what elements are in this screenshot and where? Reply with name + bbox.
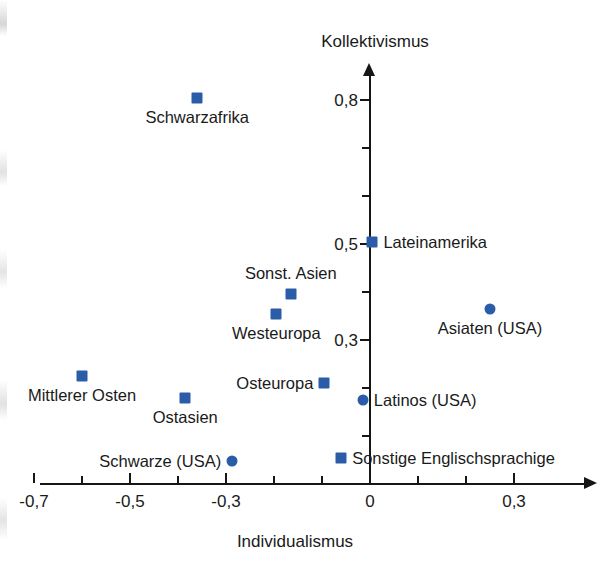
y-axis-tick xyxy=(362,195,369,197)
data-point-label: Sonst. Asien xyxy=(245,264,337,283)
data-point-marker xyxy=(271,308,282,319)
data-point-label: Mittlerer Osten xyxy=(28,386,136,405)
x-axis-tick-label: -0,7 xyxy=(19,492,48,512)
data-point-marker xyxy=(77,371,88,382)
y-axis-tick xyxy=(362,291,369,293)
x-axis-tick xyxy=(273,476,275,483)
data-point-label: Osteuropa xyxy=(236,374,313,393)
data-point-marker xyxy=(227,455,238,466)
data-point-marker xyxy=(357,395,368,406)
data-point-label: Schwarzafrika xyxy=(145,108,249,127)
data-point-marker xyxy=(336,452,347,463)
x-axis-tick xyxy=(465,476,467,483)
x-axis-title: Individualismus xyxy=(237,532,353,552)
x-axis-tick-label: 0,3 xyxy=(502,492,526,512)
data-point-marker xyxy=(192,92,203,103)
x-axis-tick xyxy=(321,476,323,483)
data-point-label: Lateinamerika xyxy=(383,232,487,251)
y-axis-tick-label: 0,3 xyxy=(318,331,358,351)
y-axis-tick-label: 0,5 xyxy=(318,235,358,255)
x-axis-tick xyxy=(129,473,131,483)
x-axis-tick xyxy=(369,473,371,483)
data-point-marker xyxy=(180,392,191,403)
y-axis-tick xyxy=(362,435,369,437)
x-axis-tick-label: -0,3 xyxy=(211,492,240,512)
x-axis-tick xyxy=(81,476,83,483)
x-axis-tick xyxy=(177,476,179,483)
data-point-marker xyxy=(485,303,496,314)
y-axis-tick xyxy=(362,387,369,389)
data-point-label: Westeuropa xyxy=(232,324,321,343)
scan-edge-artifact xyxy=(0,0,7,577)
data-point-label: Asiaten (USA) xyxy=(438,319,543,338)
x-axis-tick-label: 0 xyxy=(365,492,374,512)
x-axis-arrow-icon xyxy=(584,477,597,489)
y-axis-tick xyxy=(362,147,369,149)
x-axis-tick-label: -0,5 xyxy=(115,492,144,512)
data-point-label: Ostasien xyxy=(153,408,218,427)
y-axis-line xyxy=(369,73,371,484)
data-point-label: Sonstige Englischsprachige xyxy=(352,448,555,467)
data-point-marker xyxy=(285,289,296,300)
data-point-label: Latinos (USA) xyxy=(374,391,477,410)
x-axis-tick xyxy=(513,473,515,483)
scatter-chart: -0,7-0,5-0,300,30,30,50,8 SchwarzafrikaL… xyxy=(0,0,609,577)
data-point-marker xyxy=(319,378,330,389)
data-point-marker xyxy=(367,236,378,247)
y-axis-tick-label: 0,8 xyxy=(318,91,358,111)
x-axis-tick xyxy=(417,476,419,483)
y-axis-tick xyxy=(360,99,369,101)
y-axis-arrow-icon xyxy=(363,63,375,76)
data-point-label: Schwarze (USA) xyxy=(99,451,221,470)
x-axis-tick xyxy=(225,473,227,483)
x-axis-line xyxy=(40,483,586,485)
y-axis-tick xyxy=(360,339,369,341)
y-axis-title: Kollektivismus xyxy=(321,32,429,52)
x-axis-tick xyxy=(33,473,35,483)
